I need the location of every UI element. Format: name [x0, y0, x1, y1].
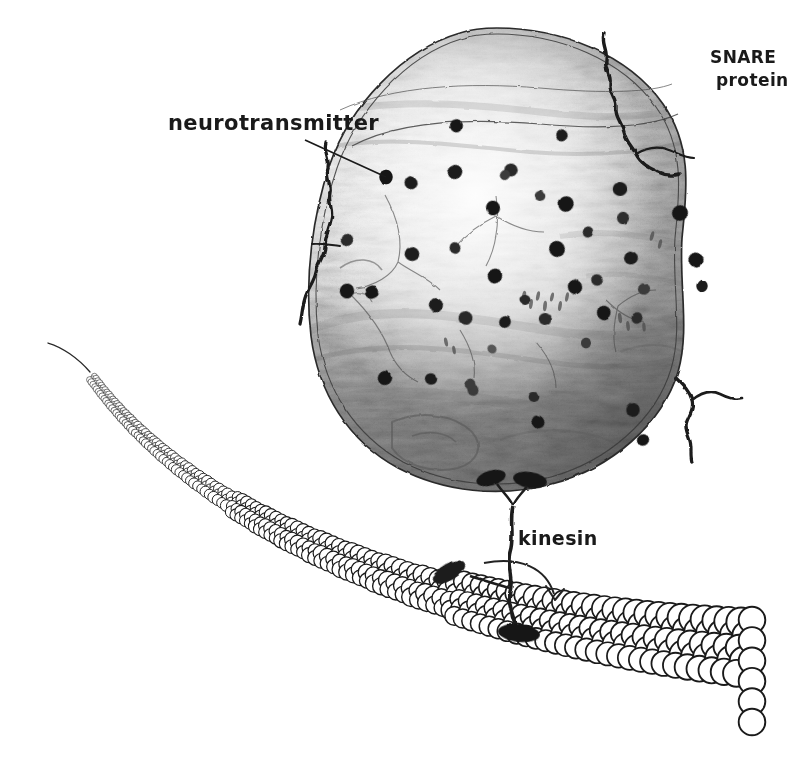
label-neurotransmitter: neurotransmitter	[168, 111, 379, 135]
label-snare-protein-line1: SNARE	[710, 47, 776, 67]
scientific-illustration: neurotransmitter SNARE protein kinesin	[0, 0, 806, 759]
illustration-canvas: neurotransmitter SNARE protein kinesin	[0, 0, 806, 759]
label-snare-protein-line2: protein	[716, 70, 789, 90]
tubulin-subunit-terminal	[739, 709, 766, 736]
microtubule-terminal-protofilament	[739, 607, 766, 736]
label-kinesin: kinesin	[518, 527, 598, 549]
